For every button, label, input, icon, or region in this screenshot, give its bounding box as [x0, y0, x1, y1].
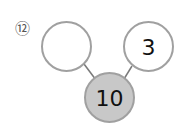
part-circle-left[interactable]	[42, 22, 91, 71]
part-circle-right: 3	[124, 22, 173, 71]
connector-right	[124, 66, 132, 79]
part-right-value: 3	[142, 35, 156, 60]
whole-value: 10	[96, 86, 124, 111]
number-bond-diagram: 3 10	[0, 0, 185, 133]
whole-circle: 10	[85, 73, 134, 122]
